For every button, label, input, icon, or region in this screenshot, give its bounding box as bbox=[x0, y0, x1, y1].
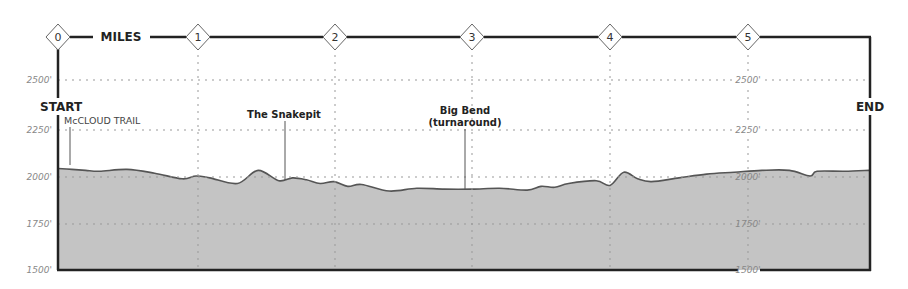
elevation-profile-chart: MILES 0 1 2 3 4 5 2500' 2250' 200 bbox=[0, 0, 908, 289]
svg-text:4: 4 bbox=[607, 31, 614, 44]
svg-text:1750': 1750' bbox=[27, 219, 52, 229]
svg-text:1500': 1500' bbox=[27, 265, 52, 275]
svg-text:(turnaround): (turnaround) bbox=[428, 117, 501, 128]
svg-text:0: 0 bbox=[55, 31, 62, 44]
svg-text:2250': 2250' bbox=[735, 125, 760, 135]
svg-text:2000': 2000' bbox=[735, 172, 760, 182]
mile-marker-2: 2 bbox=[323, 24, 347, 50]
mile-marker-4: 4 bbox=[598, 24, 622, 50]
mile-marker-1: 1 bbox=[186, 24, 210, 50]
svg-text:2500': 2500' bbox=[27, 75, 52, 85]
annotation-snakepit: The Snakepit bbox=[247, 109, 321, 180]
mile-marker-5: 5 bbox=[736, 24, 760, 50]
svg-text:2250': 2250' bbox=[27, 125, 52, 135]
mile-marker-3: 3 bbox=[460, 24, 484, 50]
svg-text:5: 5 bbox=[745, 31, 752, 44]
miles-axis-label: MILES bbox=[101, 30, 142, 44]
svg-text:1500': 1500' bbox=[735, 265, 760, 275]
svg-text:1750': 1750' bbox=[735, 219, 760, 229]
svg-text:1: 1 bbox=[195, 31, 202, 44]
svg-text:The Snakepit: The Snakepit bbox=[247, 109, 321, 120]
svg-text:3: 3 bbox=[469, 31, 476, 44]
svg-text:Big Bend: Big Bend bbox=[440, 105, 490, 116]
annotation-big-bend: Big Bend (turnaround) bbox=[428, 105, 501, 190]
mile-marker-0: 0 bbox=[46, 24, 70, 50]
svg-text:2500': 2500' bbox=[735, 75, 760, 85]
svg-text:2: 2 bbox=[332, 31, 339, 44]
annotation-mccloud-trail: McCLOUD TRAIL bbox=[64, 115, 141, 165]
end-label: END bbox=[856, 100, 884, 114]
svg-text:McCLOUD TRAIL: McCLOUD TRAIL bbox=[64, 115, 141, 126]
start-label: START bbox=[40, 100, 83, 114]
svg-text:2000': 2000' bbox=[27, 172, 52, 182]
